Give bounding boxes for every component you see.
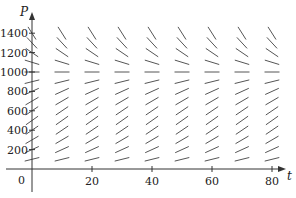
- slope-segment: [175, 158, 190, 162]
- slope-segment: [206, 97, 219, 105]
- slope-segment: [146, 97, 159, 105]
- y-tick-label: 800: [7, 85, 28, 98]
- slope-segment: [205, 88, 219, 94]
- slope-segment: [86, 107, 98, 115]
- slope-segment: [148, 27, 156, 40]
- slope-segment: [115, 158, 130, 162]
- slope-segment: [176, 107, 188, 115]
- slope-segment: [236, 126, 248, 134]
- slope-segment: [235, 60, 249, 64]
- y-tick-label: 1200: [0, 47, 28, 60]
- slope-segment: [145, 88, 159, 94]
- slope-segment: [238, 27, 246, 40]
- slope-segment: [55, 158, 70, 162]
- slope-segment: [206, 136, 219, 144]
- slope-segment: [145, 60, 159, 64]
- slope-field-segments: [25, 27, 280, 161]
- slope-segment: [206, 126, 218, 134]
- slope-segment: [115, 80, 130, 84]
- y-tick-label: 1400: [0, 27, 28, 40]
- slope-segment: [55, 80, 70, 84]
- slope-segment: [116, 126, 128, 134]
- slope-segment: [56, 126, 68, 134]
- slope-segment: [235, 80, 250, 84]
- slope-segment: [206, 107, 218, 115]
- axes: [6, 12, 286, 192]
- slope-segment: [56, 107, 68, 115]
- slope-segment: [146, 116, 158, 125]
- slope-segment: [146, 126, 158, 134]
- slope-segment: [85, 80, 100, 84]
- slope-segment: [265, 60, 279, 64]
- origin-label: 0: [18, 174, 25, 187]
- y-tick-label: 1000: [0, 66, 28, 79]
- slope-segment: [175, 60, 189, 64]
- slope-segment: [176, 97, 189, 105]
- slope-segment: [85, 158, 100, 162]
- slope-segment: [235, 147, 249, 153]
- slope-segment: [176, 48, 188, 56]
- x-axis-label: t: [287, 169, 292, 183]
- slope-segment: [206, 116, 218, 125]
- slope-segment: [55, 147, 69, 153]
- slope-segment: [56, 97, 69, 105]
- slope-segment: [236, 136, 249, 144]
- slope-segment: [146, 107, 158, 115]
- ticks: 20406080200400600800100012001400: [0, 27, 279, 188]
- slope-segment: [146, 48, 158, 56]
- x-tick-label: 80: [265, 175, 279, 188]
- slope-segment: [266, 107, 278, 115]
- slope-segment: [85, 147, 99, 153]
- slope-segment: [85, 88, 99, 94]
- slope-segment: [56, 48, 68, 56]
- slope-segment: [58, 27, 66, 40]
- slope-segment: [86, 48, 98, 56]
- slope-segment: [146, 136, 159, 144]
- slope-segment: [265, 158, 280, 162]
- slope-field-chart: 20406080200400600800100012001400 P t 0: [0, 0, 296, 198]
- y-tick-label: 400: [7, 124, 28, 137]
- slope-segment: [176, 116, 188, 125]
- slope-segment: [86, 136, 99, 144]
- slope-segment: [176, 126, 188, 134]
- slope-segment: [116, 97, 129, 105]
- slope-segment: [86, 126, 98, 134]
- slope-segment: [116, 107, 128, 115]
- slope-segment: [116, 136, 129, 144]
- slope-segment: [235, 88, 249, 94]
- slope-segment: [145, 158, 160, 162]
- slope-segment: [236, 48, 248, 56]
- slope-segment: [266, 116, 278, 125]
- slope-segment: [236, 107, 248, 115]
- slope-segment: [236, 97, 249, 105]
- slope-segment: [268, 27, 276, 40]
- slope-segment: [175, 80, 190, 84]
- slope-segment: [116, 48, 128, 56]
- slope-segment: [205, 158, 220, 162]
- slope-segment: [266, 126, 278, 134]
- slope-segment: [55, 88, 69, 94]
- slope-segment: [265, 147, 279, 153]
- slope-segment: [175, 88, 189, 94]
- slope-segment: [205, 80, 220, 84]
- slope-segment: [115, 88, 129, 94]
- slope-segment: [266, 48, 278, 56]
- slope-segment: [86, 97, 99, 105]
- slope-segment: [85, 60, 99, 64]
- slope-segment: [176, 136, 189, 144]
- slope-segment: [266, 136, 279, 144]
- slope-segment: [55, 60, 69, 64]
- x-tick-label: 60: [205, 175, 219, 188]
- slope-segment: [205, 147, 219, 153]
- slope-segment: [265, 88, 279, 94]
- slope-segment: [206, 48, 218, 56]
- slope-segment: [175, 147, 189, 153]
- slope-segment: [56, 136, 69, 144]
- slope-segment: [118, 27, 126, 40]
- slope-segment: [235, 158, 250, 162]
- y-tick-label: 200: [7, 144, 28, 157]
- y-axis-label: P: [19, 5, 29, 19]
- x-tick-label: 40: [145, 175, 159, 188]
- slope-segment: [208, 27, 216, 40]
- slope-segment: [116, 116, 128, 125]
